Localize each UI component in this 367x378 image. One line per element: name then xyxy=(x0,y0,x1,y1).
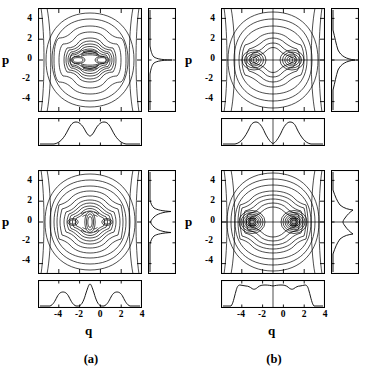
marginal-q-top-left xyxy=(38,118,142,146)
marginal-p-top-right xyxy=(331,8,359,112)
panel-top-left-group: 4 2 0 -2 -4 p xyxy=(0,0,184,152)
panel-bottom-left-group: 4 2 0 -2 -4 p xyxy=(0,162,184,342)
ytick-label: 2 xyxy=(18,34,32,44)
ytick-label: 0 xyxy=(201,216,215,226)
yaxis-title: p xyxy=(185,214,192,230)
yaxis-title: p xyxy=(2,214,9,230)
ytick-label: 0 xyxy=(18,216,32,226)
marginal-q-bottom-left xyxy=(38,280,142,308)
ytick-label: 4 xyxy=(201,14,215,24)
marginal-p-top-left xyxy=(148,8,176,112)
ytick-label: -4 xyxy=(16,256,30,266)
caption-column-b: (b) xyxy=(259,352,289,367)
ytick-label: -4 xyxy=(199,94,213,104)
xtick-label: -4 xyxy=(234,310,248,320)
marginal-p-bottom-left xyxy=(148,170,176,274)
xaxis-title: q xyxy=(268,323,275,339)
ytick-label: 0 xyxy=(201,54,215,64)
ytick-label: -2 xyxy=(16,236,30,246)
xtick-label: 2 xyxy=(114,310,128,320)
yaxis-title: p xyxy=(2,52,9,68)
xtick-label: 0 xyxy=(276,310,290,320)
xtick-label: 4 xyxy=(318,310,332,320)
ytick-label: 2 xyxy=(201,196,215,206)
marginal-p-bottom-right xyxy=(331,170,359,274)
ytick-label: 2 xyxy=(201,34,215,44)
xtick-label: -2 xyxy=(72,310,86,320)
panel-top-right-group: 4 2 0 -2 -4 p xyxy=(183,0,367,152)
caption-column-a: (a) xyxy=(76,352,106,367)
marginal-q-top-right xyxy=(221,118,325,146)
ytick-label: -2 xyxy=(16,74,30,84)
ytick-label: 4 xyxy=(201,176,215,186)
contour-plot-bottom-left xyxy=(38,170,142,274)
ytick-label: -2 xyxy=(199,74,213,84)
ytick-label: 2 xyxy=(18,196,32,206)
xtick-label: 4 xyxy=(135,310,149,320)
figure-container: 4 2 0 -2 -4 p xyxy=(0,0,367,378)
marginal-q-bottom-right xyxy=(221,280,325,308)
yaxis-title: p xyxy=(185,52,192,68)
contour-plot-top-right xyxy=(221,8,325,112)
contour-plot-top-left xyxy=(38,8,142,112)
contour-plot-bottom-right xyxy=(221,170,325,274)
ytick-label: 4 xyxy=(18,176,32,186)
xtick-label: 0 xyxy=(93,310,107,320)
ytick-label: 4 xyxy=(18,14,32,24)
panel-bottom-right-group: 4 2 0 -2 -4 p xyxy=(183,162,367,342)
ytick-label: -2 xyxy=(199,236,213,246)
ytick-label: 0 xyxy=(18,54,32,64)
xaxis-title: q xyxy=(85,323,92,339)
ytick-label: -4 xyxy=(16,94,30,104)
xtick-label: 2 xyxy=(297,310,311,320)
xtick-label: -4 xyxy=(51,310,65,320)
ytick-label: -4 xyxy=(199,256,213,266)
xtick-label: -2 xyxy=(255,310,269,320)
